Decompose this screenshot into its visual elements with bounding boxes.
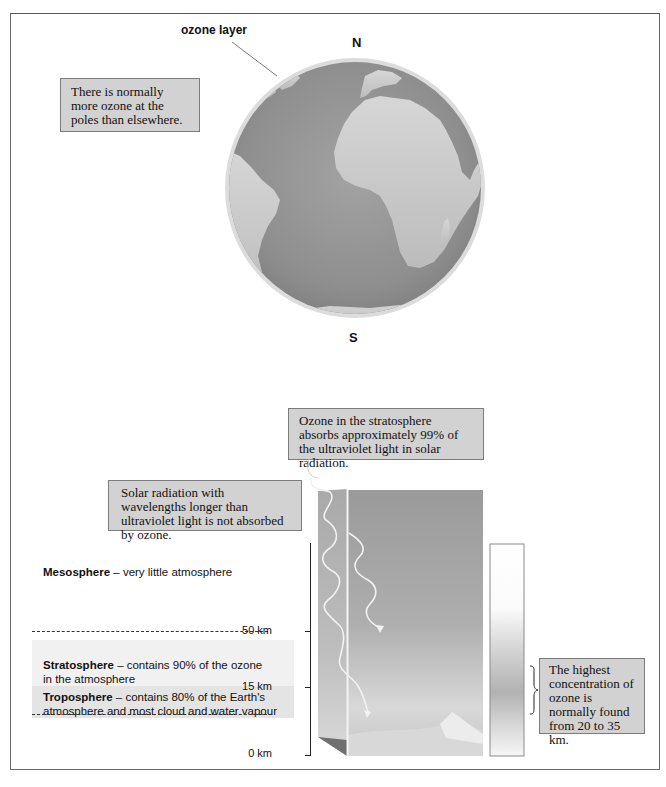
concentration-callout: The highest concentration of ozone is no… [539, 658, 645, 734]
ozone-concentration-bar [490, 544, 524, 756]
